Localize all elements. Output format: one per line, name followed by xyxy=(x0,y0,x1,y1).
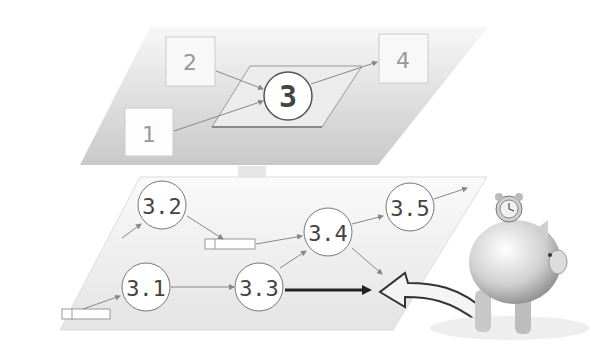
svg-text:3.5: 3.5 xyxy=(390,196,430,221)
node-3-3: 3.3 xyxy=(235,263,283,311)
node-3-1: 3.1 xyxy=(122,263,170,311)
input-bar-2 xyxy=(205,239,255,249)
node-3-2: 3.2 xyxy=(138,181,186,229)
input-bar-1 xyxy=(62,309,110,319)
svg-text:4: 4 xyxy=(396,48,410,73)
box-1: 1 xyxy=(125,108,173,156)
svg-text:3.2: 3.2 xyxy=(142,194,182,219)
node-3: 3 xyxy=(264,72,312,120)
svg-text:3: 3 xyxy=(279,79,297,114)
svg-text:2: 2 xyxy=(183,50,197,75)
process-zoom-diagram: 2 1 4 3 3.2 3. xyxy=(0,0,595,350)
clock-icon xyxy=(495,193,523,222)
svg-text:3.4: 3.4 xyxy=(308,221,348,246)
box-4: 4 xyxy=(379,34,428,83)
node-3-4: 3.4 xyxy=(304,208,352,256)
svg-text:1: 1 xyxy=(142,122,156,147)
node-3-5: 3.5 xyxy=(386,183,434,231)
box-2: 2 xyxy=(166,37,215,86)
svg-text:3.1: 3.1 xyxy=(126,276,166,301)
svg-text:3.3: 3.3 xyxy=(239,276,279,301)
